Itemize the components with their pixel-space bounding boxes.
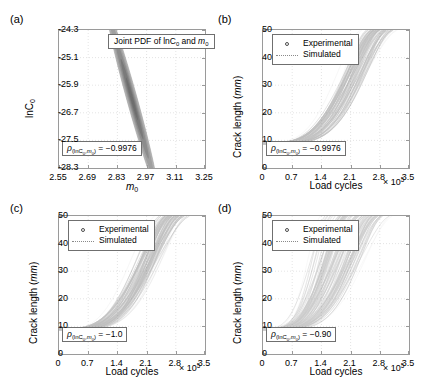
panel-a-label: (a) [10, 13, 23, 25]
panel-c-xtick: 0.7 [81, 358, 94, 368]
figure-joint-pdf-crack-growth: (a) [0, 0, 423, 389]
panel-d-y-axis-label: Crack length (mm) [232, 262, 243, 344]
panel-b-x-exponent: × 105 [383, 177, 404, 187]
panel-a-x-axis-label: m0 [126, 181, 138, 192]
simulated-line-icon [276, 55, 298, 56]
panel-c-correlation-annotation: ρ(lnC0,m0) = −1.0 [62, 327, 127, 342]
panel-c-x-axis-label: Load cycles [106, 366, 159, 377]
legend-label-simulated: Simulated [99, 235, 137, 246]
panel-d-xtick: 0 [259, 358, 264, 368]
legend-label-experimental: Experimental [303, 224, 353, 235]
panel-d-label: (d) [218, 202, 231, 214]
simulated-line-icon [72, 241, 94, 242]
legend-label-simulated: Simulated [303, 235, 341, 246]
panel-d-correlation-annotation: ρ(lnC0,m0) = −0.90 [266, 327, 336, 342]
legend-row-simulated: Simulated [276, 49, 353, 60]
panel-b-x-axis-label: Load cycles [310, 180, 363, 191]
legend-row-simulated: Simulated [72, 235, 149, 246]
legend-row-simulated: Simulated [276, 235, 353, 246]
panel-c-y-axis-label: Crack length (mm) [28, 262, 39, 344]
panel-a-xtick: 3.25 [195, 172, 213, 182]
panel-a-xtick: 2.83 [108, 172, 126, 182]
panel-b-label: (b) [218, 13, 231, 25]
panel-b-correlation-annotation: ρ(lnC0,m0) = −0.9976 [266, 141, 346, 156]
panel-b-legend: Experimental Simulated [272, 34, 359, 65]
simulated-line-icon [276, 241, 298, 242]
panel-a-y-axis-label: lnC0 [24, 99, 35, 118]
panel-d-xtick: 0.7 [285, 358, 298, 368]
panel-b-y-axis-label: Crack length (mm) [232, 76, 243, 158]
legend-row-experimental: Experimental [276, 38, 353, 49]
experimental-marker-icon [276, 228, 298, 232]
legend-label-simulated: Simulated [303, 49, 341, 60]
panel-a-xtick: 2.69 [78, 172, 96, 182]
panel-c-legend: Experimental Simulated [68, 220, 155, 251]
legend-label-experimental: Experimental [99, 224, 149, 235]
panel-c-label: (c) [10, 202, 23, 214]
experimental-marker-icon [276, 42, 298, 46]
panel-a-xtick: 2.97 [137, 172, 155, 182]
legend-label-experimental: Experimental [303, 38, 353, 49]
legend-row-experimental: Experimental [276, 224, 353, 235]
panel-a-title-box: Joint PDF of lnC0 and m0 [108, 34, 215, 49]
experimental-marker-icon [72, 228, 94, 232]
panel-d-legend: Experimental Simulated [272, 220, 359, 251]
panel-d-x-axis-label: Load cycles [310, 366, 363, 377]
panel-b-xtick: 0.7 [285, 172, 298, 182]
panel-a-xtick: 3.11 [166, 172, 183, 182]
panel-b-xtick: 0 [259, 172, 264, 182]
legend-row-experimental: Experimental [72, 224, 149, 235]
panel-a-xtick: 2.55 [49, 172, 67, 182]
panel-c-xtick: 0 [55, 358, 60, 368]
panel-c-x-exponent: × 105 [179, 363, 200, 373]
panel-d-x-exponent: × 105 [383, 363, 404, 373]
